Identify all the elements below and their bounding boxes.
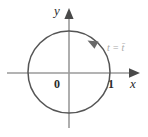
x-tick-label-one: 1: [108, 77, 114, 91]
unit-circle-diagram: y x 0 1 t = t̄: [0, 0, 148, 137]
x-axis-label: x: [129, 76, 136, 91]
y-axis-label: y: [52, 3, 60, 18]
counterclockwise-direction-arrow-icon: [88, 41, 99, 49]
math-figure: y x 0 1 t = t̄: [0, 0, 148, 137]
y-axis-arrowhead: [64, 8, 73, 19]
parameter-annotation-label: t = t̄: [107, 42, 126, 53]
origin-label: 0: [54, 77, 60, 91]
